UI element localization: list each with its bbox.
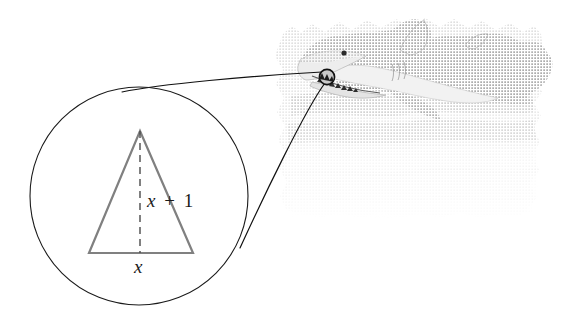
figure-root: x + 1 x (0, 0, 567, 327)
height-label-constant: 1 (184, 190, 194, 211)
shark-eye-icon (341, 50, 346, 55)
figure-canvas: x + 1 x (0, 0, 567, 327)
base-label: x (133, 256, 143, 277)
wash-band-lowest (292, 198, 532, 217)
height-label-variable: x (146, 190, 156, 211)
wash-band-lower (288, 172, 538, 200)
height-label: x + 1 (146, 190, 193, 211)
water-wash-layer-near (288, 172, 538, 218)
height-label-operator: + (164, 190, 175, 211)
wash-band-mid3 (286, 146, 538, 172)
wash-band-mid2 (288, 119, 536, 144)
